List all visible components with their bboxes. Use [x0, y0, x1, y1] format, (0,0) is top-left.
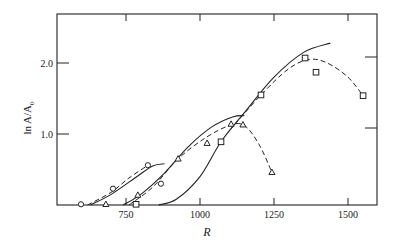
x-tick-label: 750 [119, 209, 134, 220]
circle-marker [158, 181, 163, 186]
squares-dashed-curve [230, 59, 363, 130]
circles-dashed-curve [88, 165, 148, 205]
square-marker [313, 69, 319, 75]
triangle-marker [204, 140, 210, 145]
x-axis-label: R [202, 225, 211, 239]
square-marker [360, 93, 366, 99]
x-tick-label: 1000 [190, 209, 210, 220]
curves [88, 43, 364, 205]
triangle-marker [269, 169, 275, 174]
y-tick-label: 2.0 [41, 58, 54, 69]
axis-ticks: 7501000125015001.02.0 [41, 14, 378, 220]
data-markers [78, 55, 365, 207]
circle-marker [145, 163, 150, 168]
triangle-marker [228, 121, 234, 126]
triangle-marker [175, 156, 181, 161]
x-tick-label: 1250 [264, 209, 284, 220]
x-tick-label: 1500 [338, 209, 358, 220]
triangles-theory-curve [123, 116, 244, 205]
square-marker [258, 92, 264, 98]
square-marker [133, 201, 139, 207]
circle-marker [110, 186, 115, 191]
triangle-marker [103, 201, 109, 206]
circle-marker [78, 202, 83, 207]
svg-text:ln A/A0: ln A/A0 [21, 101, 36, 135]
chart: 7501000125015001.02.0 R ln A/A0 [0, 0, 394, 244]
square-marker [302, 55, 308, 61]
square-marker [218, 139, 224, 145]
plot-frame [57, 14, 377, 205]
y-axis-label: ln A/A0 [21, 101, 36, 135]
plot-border [57, 14, 377, 205]
y-tick-label: 1.0 [41, 129, 54, 140]
triangle-marker [240, 122, 246, 127]
